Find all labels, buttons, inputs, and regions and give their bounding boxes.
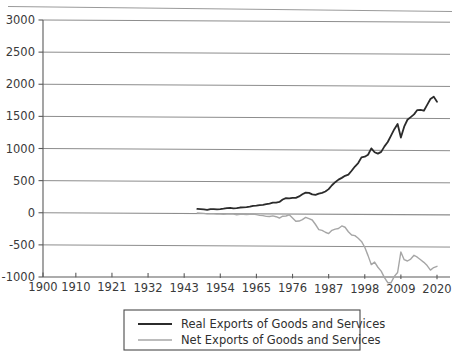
legend-label-1: Net Exports of Goods and Services	[181, 333, 381, 347]
x-tick-label: 1998	[350, 282, 379, 296]
y-tick-label: 0	[28, 206, 35, 220]
x-tick-label: 1954	[206, 281, 235, 295]
y-tick-label: 500	[13, 174, 35, 188]
legend-label-0: Real Exports of Goods and Services	[181, 317, 385, 331]
chart-legend: Real Exports of Goods and ServicesNet Ex…	[124, 310, 385, 350]
y-tick-label: -500	[9, 238, 35, 252]
y-tick-label: 2000	[6, 77, 35, 91]
y-tick-label: 1000	[6, 142, 35, 156]
y-tick-label: 2500	[6, 45, 35, 59]
exports-line-chart: 300025002000150010005000-500-1000 190019…	[0, 0, 460, 355]
x-tick-label: 1900	[28, 280, 57, 294]
x-tick-label: 1987	[314, 282, 343, 296]
x-tick-label: 1910	[61, 280, 90, 294]
y-tick-label: 3000	[6, 13, 35, 27]
x-tick-label: 1943	[170, 281, 199, 295]
x-tick-label: 1976	[278, 281, 307, 295]
x-tick-label: 2020	[422, 282, 451, 296]
y-tick-label: 1500	[6, 109, 35, 123]
x-tick-label: 1921	[97, 280, 126, 294]
x-tick-label: 1965	[242, 281, 271, 295]
x-tick-label: 2009	[386, 282, 415, 296]
x-tick-label: 1932	[133, 281, 162, 295]
